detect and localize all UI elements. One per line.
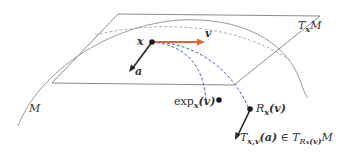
retraction-label: Rx(v): [256, 103, 286, 114]
point-x: [149, 39, 155, 45]
point-exp: [216, 97, 222, 103]
exp-map-label: expx(v): [174, 96, 215, 107]
transport-label: Tx,v(a) ∈ TRx(v)M: [240, 132, 333, 143]
diagram-canvas: M TxM x v a expx(v) Rx(v) Tx,v(a) ∈ TRx(…: [0, 0, 362, 160]
point-x-label: x: [137, 36, 144, 47]
tangent-space-label: TxM: [298, 20, 321, 31]
vector-v-label: v: [205, 28, 211, 39]
vector-a-label: a: [135, 66, 142, 77]
point-retraction: [247, 106, 253, 112]
vector-v-arrowhead: [197, 39, 205, 46]
manifold-label: M: [29, 103, 40, 114]
